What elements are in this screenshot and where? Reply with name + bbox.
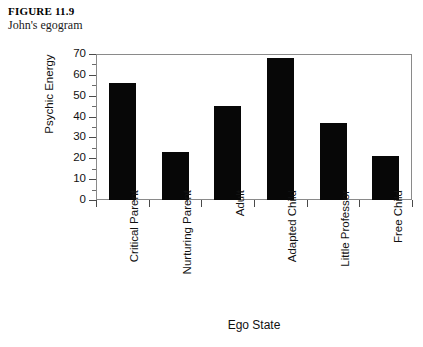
y-tick-mark [89,200,96,201]
bars-container [96,54,412,200]
y-tick-label: 30 [60,131,86,143]
x-tick-label: Free Child [392,190,404,300]
y-tick-label: 10 [60,173,86,185]
x-tick-mark [412,200,413,207]
x-tick-label: Nurturing Parent [181,190,193,300]
x-tick-label: Critical Parent [128,190,140,300]
y-tick-mark [89,137,96,138]
bar [267,58,294,200]
y-tick-label: 50 [60,90,86,102]
y-tick-mark [89,75,96,76]
y-tick-label: 0 [60,194,86,206]
y-tick-label: 20 [60,152,86,164]
x-tick-mark [149,200,150,207]
x-tick-label: Adult [234,190,246,300]
x-tick-mark [359,200,360,207]
y-tick-mark [89,179,96,180]
y-tick-label: 60 [60,69,86,81]
x-tick-label: Little Professor [339,190,351,300]
bar [320,123,347,200]
x-tick-label: Adapted Child [286,190,298,300]
x-tick-mark [254,200,255,207]
bar-chart: Psychic Energy 010203040506070 Critical … [0,0,423,347]
y-tick-mark [89,96,96,97]
y-tick-mark [89,158,96,159]
bar [214,106,241,200]
bar [109,83,136,200]
x-axis-title: Ego State [96,318,412,332]
y-tick-mark [89,117,96,118]
y-tick-label: 40 [60,111,86,123]
y-axis-title: Psychic Energy [43,39,55,149]
x-tick-mark [96,200,97,207]
y-tick-label: 70 [60,48,86,60]
y-tick-mark [89,54,96,55]
x-tick-mark [201,200,202,207]
x-tick-mark [307,200,308,207]
